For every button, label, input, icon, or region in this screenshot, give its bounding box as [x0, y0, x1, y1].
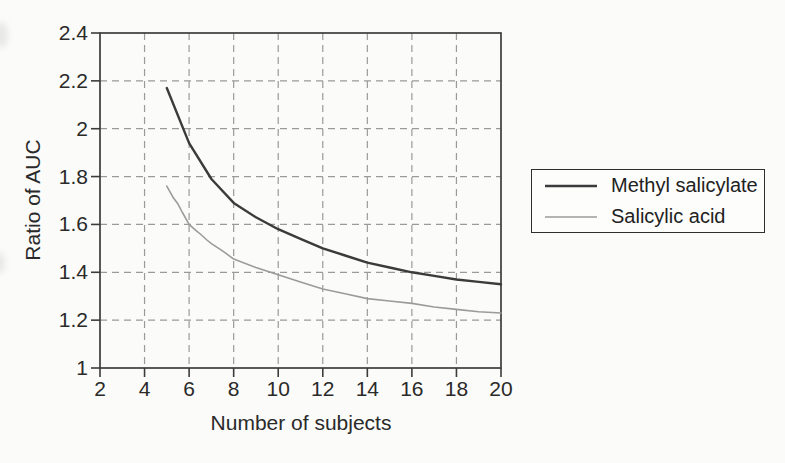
legend-label: Salicylic acid: [611, 205, 725, 228]
x-tick-label: 20: [476, 377, 526, 401]
legend: Methyl salicylate Salicylic acid: [531, 169, 765, 233]
legend-line-sample-salicylic-acid: [545, 214, 597, 220]
x-tick-label: 16: [387, 377, 437, 401]
x-tick-label: 10: [253, 377, 303, 401]
y-tick-label: 2: [0, 117, 88, 141]
legend-label: Methyl salicylate: [611, 174, 758, 197]
y-axis-title: Ratio of AUC: [21, 139, 45, 260]
legend-item: Methyl salicylate: [532, 172, 764, 199]
y-tick-label: 1.4: [0, 260, 88, 284]
y-tick-label: 2.2: [0, 69, 88, 93]
x-tick-label: 12: [298, 377, 348, 401]
legend-item: Salicylic acid: [532, 203, 764, 230]
chart-figure: 11.21.41.61.822.22.4 2468101214161820 Ra…: [0, 0, 785, 463]
x-tick-label: 6: [164, 377, 214, 401]
x-axis-title: Number of subjects: [211, 411, 392, 435]
x-tick-label: 2: [75, 377, 125, 401]
x-tick-label: 14: [342, 377, 392, 401]
x-tick-label: 8: [209, 377, 259, 401]
series-line-methyl-salicylate: [167, 88, 501, 284]
x-tick-label: 18: [431, 377, 481, 401]
y-tick-label: 2.4: [0, 21, 88, 45]
legend-line-sample-methyl-salicylate: [545, 183, 597, 189]
y-tick-label: 1.2: [0, 308, 88, 332]
series-line-salicylic-acid: [167, 186, 501, 313]
x-tick-label: 4: [120, 377, 170, 401]
